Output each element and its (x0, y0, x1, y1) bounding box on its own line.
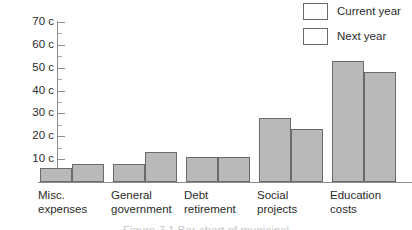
bar (259, 118, 291, 182)
bar (186, 157, 218, 182)
figure-caption-cutoff: Figure 7.1 Bar chart of municipal (0, 224, 412, 230)
bar (291, 129, 323, 182)
bar (332, 61, 364, 182)
x-axis-category-label-line: General (111, 188, 172, 202)
x-axis-category-label-line: costs (330, 202, 381, 216)
x-axis-category-label: Generalgovernment (111, 188, 172, 216)
x-axis-category-label: Misc.expenses (38, 188, 87, 216)
x-axis-category-label-line: Misc. (38, 188, 87, 202)
bar (72, 164, 104, 182)
bar (113, 164, 145, 182)
figure-caption-text: Figure 7.1 Bar chart of municipal (0, 224, 412, 230)
x-axis-category-label-line: retirement (184, 202, 236, 216)
x-axis-category-label-line: Debt (184, 188, 236, 202)
x-axis-category-label-line: expenses (38, 202, 87, 216)
x-axis-category-label: Educationcosts (330, 188, 381, 216)
x-axis-category-label-line: projects (257, 202, 297, 216)
bar (40, 168, 72, 182)
x-axis-category-label-line: Social (257, 188, 297, 202)
x-axis-category-label: Debtretirement (184, 188, 236, 216)
x-axis-category-label: Socialprojects (257, 188, 297, 216)
bar (145, 152, 177, 182)
bar (364, 72, 396, 182)
bar-chart-figure: Current year Next year 70 c60 c50 c40 c3… (0, 0, 412, 230)
bar (218, 157, 250, 182)
x-axis-category-label-line: government (111, 202, 172, 216)
x-axis-category-label-line: Education (330, 188, 381, 202)
